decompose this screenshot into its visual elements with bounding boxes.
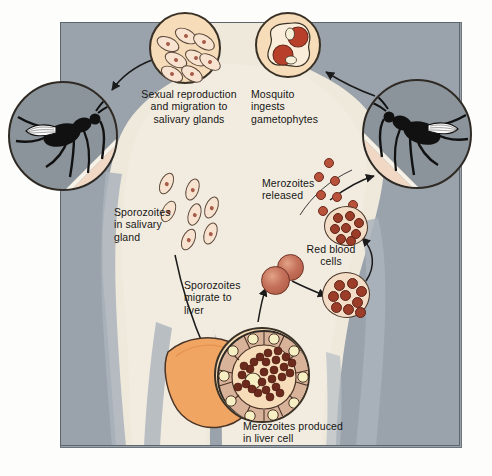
label-red-blood-cells: Red blood cells <box>300 243 362 268</box>
mosquito-right-inset <box>362 79 472 189</box>
liver-cell-inset <box>214 327 310 423</box>
label-merozoites-released: Merozoites released <box>262 177 332 202</box>
label-sporozoites-salivary: Sporozoites in salivary gland <box>114 206 196 243</box>
label-merozoites-liver: Merozoites produced in liver cell <box>243 420 373 445</box>
label-sexual-reproduction: Sexual reproduction and migration to sal… <box>133 88 245 125</box>
mosquito-left-inset <box>8 81 118 191</box>
infected-red-blood-cell <box>322 272 370 318</box>
bursting-red-blood-cell <box>324 206 368 246</box>
label-mosquito-ingests: Mosquito ingests gametophytes <box>251 88 331 125</box>
sporozoite-cluster-inset <box>149 12 221 84</box>
gametophyte-inset <box>255 12 321 78</box>
malaria-life-cycle-diagram: Sexual reproduction and migration to sal… <box>0 0 492 476</box>
label-sporozoites-migrate: Sporozoites migrate to liver <box>184 279 264 316</box>
